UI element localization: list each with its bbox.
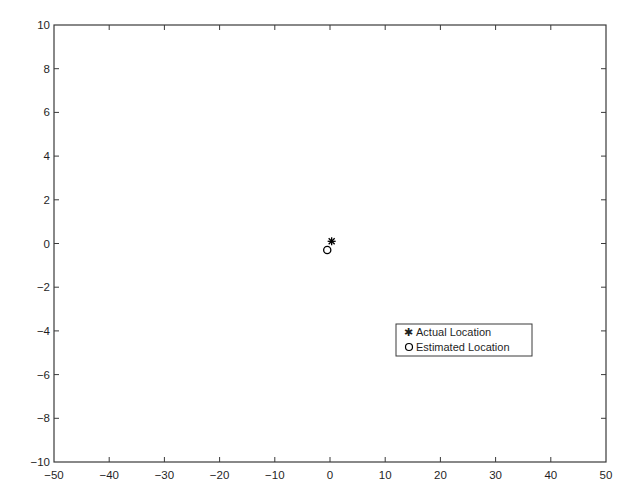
y-tick-label: 0 — [44, 238, 50, 250]
y-tick-label: 8 — [44, 63, 50, 75]
y-tick-label: 6 — [44, 106, 50, 118]
y-tick-label: 2 — [44, 194, 50, 206]
legend-label-estimated: Estimated Location — [416, 341, 510, 353]
x-tick-label: 10 — [379, 469, 392, 481]
y-tick-label: −2 — [37, 281, 50, 293]
legend-label-actual: Actual Location — [416, 326, 491, 338]
x-tick-label: −50 — [44, 469, 64, 481]
x-tick-label: −20 — [210, 469, 230, 481]
x-tick-label: 0 — [327, 469, 333, 481]
asterisk-icon: ✱ — [404, 326, 413, 338]
x-tick-label: 50 — [600, 469, 613, 481]
x-tick-label: 40 — [544, 469, 557, 481]
scatter-chart: −50−40−30−20−1001020304050 −10−8−6−4−202… — [0, 0, 642, 504]
x-tick-label: −40 — [99, 469, 119, 481]
y-tick-label: −10 — [30, 456, 50, 468]
actual-location-marker — [328, 237, 336, 245]
y-tick-label: 10 — [37, 19, 50, 31]
x-tick-label: 30 — [489, 469, 502, 481]
legend: ✱ Actual Location Estimated Location — [396, 324, 532, 356]
x-tick-label: −30 — [155, 469, 175, 481]
x-tick-label: −10 — [265, 469, 285, 481]
y-tick-label: −4 — [37, 325, 51, 337]
y-tick-label: 4 — [44, 150, 51, 162]
y-tick-label: −8 — [37, 412, 50, 424]
y-tick-label: −6 — [37, 369, 50, 381]
x-tick-label: 20 — [434, 469, 447, 481]
